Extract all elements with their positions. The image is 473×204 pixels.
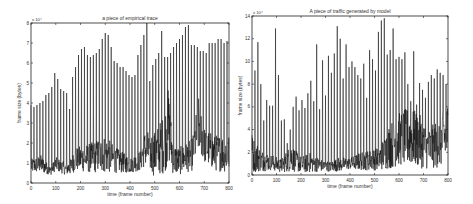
x-tick-label: 600 xyxy=(176,186,184,191)
y-tick-label: 6 xyxy=(247,104,250,109)
y-multiplier: x 10⁴ xyxy=(32,17,42,22)
y-tick-label: 2 xyxy=(247,150,250,155)
x-axis-label: time (frame number) xyxy=(327,183,373,189)
y-tick-label: 5 xyxy=(26,81,29,86)
y-tick-label: 7 xyxy=(26,41,29,46)
y-tick-label: 0 xyxy=(26,181,29,186)
y-tick-label: 0 xyxy=(247,173,250,178)
data-series-line xyxy=(252,18,448,172)
y-tick-label: 6 xyxy=(26,61,29,66)
chart-2: 010020030040050060070080002468101214x 10… xyxy=(237,8,452,189)
y-tick-label: 8 xyxy=(26,21,29,26)
chart-1: 0100200300400500600700800012345678x 10⁴a… xyxy=(16,15,233,197)
y-axis-label: frame size (bytes) xyxy=(237,75,243,115)
y-tick-label: 4 xyxy=(26,101,29,106)
figure: 0100200300400500600700800012345678x 10⁴a… xyxy=(0,0,473,204)
y-multiplier: x 10⁴ xyxy=(253,10,263,15)
y-tick-label: 12 xyxy=(245,36,251,41)
x-tick-label: 800 xyxy=(444,178,452,183)
x-tick-label: 200 xyxy=(297,178,305,183)
x-tick-label: 600 xyxy=(395,178,403,183)
y-tick-label: 8 xyxy=(247,82,250,87)
x-tick-label: 800 xyxy=(225,186,233,191)
data-series-line xyxy=(31,23,229,175)
x-axis-label: time (frame number) xyxy=(107,191,153,197)
y-tick-label: 10 xyxy=(245,59,251,64)
x-tick-label: 100 xyxy=(273,178,281,183)
x-tick-label: 100 xyxy=(52,186,60,191)
y-tick-label: 2 xyxy=(26,141,29,146)
y-tick-label: 1 xyxy=(26,161,29,166)
x-tick-label: 700 xyxy=(200,186,208,191)
figure-canvas: 0100200300400500600700800012345678x 10⁴a… xyxy=(0,0,473,204)
y-axis-label: frame size (bytes) xyxy=(16,83,22,123)
y-tick-label: 4 xyxy=(247,127,250,132)
chart-title: A piece of traffic generated by model xyxy=(309,8,390,14)
x-tick-label: 700 xyxy=(420,178,428,183)
x-tick-label: 0 xyxy=(251,178,254,183)
x-tick-label: 200 xyxy=(77,186,85,191)
x-tick-label: 0 xyxy=(30,186,33,191)
chart-title: a piece of empirical trace xyxy=(102,15,158,21)
y-tick-label: 3 xyxy=(26,121,29,126)
y-tick-label: 14 xyxy=(245,14,251,19)
